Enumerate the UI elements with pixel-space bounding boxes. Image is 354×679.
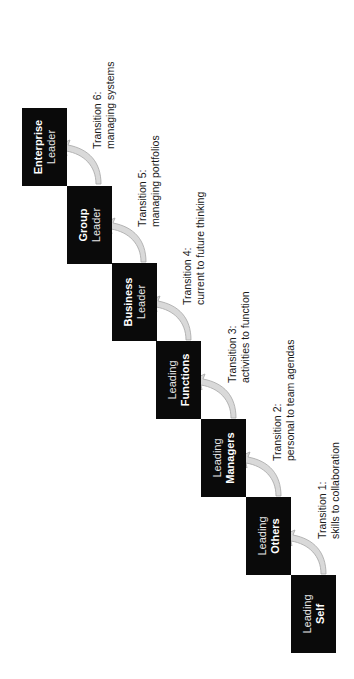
stage-enterprise-leader: Enterprise Leader [22,108,67,186]
stage-line2: Leader [135,285,148,319]
transition-label-5: Transition 5: managing portfolios [136,135,161,227]
stage-leading-managers: Leading Managers [201,419,246,497]
stage-line2: Others [269,518,282,553]
transition-label-3: Transition 3: activities to function [226,291,251,383]
transition-label-4: Transition 4: current to future thinking [181,192,206,305]
stage-business-leader: Business Leader [112,263,157,341]
transition-label-1: Transition 1: skills to collaboration [316,442,341,539]
transition-title: Transition 1: [316,442,329,539]
transition-desc: skills to collaboration [329,442,342,539]
stage-leading-self: Leading Self [291,575,336,653]
transition-desc: current to future thinking [194,192,207,305]
stage-group-leader: Group Leader [67,186,112,264]
stage-line2: Self [314,604,327,624]
stage-line1: Enterprise [32,120,45,174]
transition-desc: activities to function [239,291,252,383]
transition-title: Transition 5: [136,135,149,227]
transition-label-6: Transition 6: managing systems [91,61,116,149]
transition-title: Transition 3: [226,291,239,383]
leadership-pipeline-diagram: Leading Self Leading Others Leading Mana… [0,0,354,679]
stage-line1: Leading [211,438,224,477]
stage-line2: Functions [179,354,192,407]
stage-line1: Leading [166,360,179,399]
transition-desc: managing portfolios [149,135,162,227]
stage-line2: Managers [224,432,237,483]
stage-line2: Leader [45,130,58,164]
transition-title: Transition 2: [271,340,284,461]
stage-leading-functions: Leading Functions [156,341,201,419]
stage-line1: Leading [301,594,314,633]
stage-line1: Group [77,209,90,242]
transition-title: Transition 4: [181,192,194,305]
transition-desc: personal to team agendas [284,340,297,461]
transition-title: Transition 6: [91,61,104,149]
transition-desc: managing systems [104,61,117,149]
stage-line2: Leader [90,208,103,242]
stage-leading-others: Leading Others [246,497,291,575]
stage-line1: Leading [256,516,269,555]
stage-line1: Business [122,278,135,327]
transition-label-2: Transition 2: personal to team agendas [271,340,296,461]
